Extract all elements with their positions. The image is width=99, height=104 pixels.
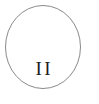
roman-numeral-label: II <box>0 59 86 79</box>
figure-canvas: II <box>0 0 99 104</box>
circle-outline-svg <box>0 0 99 104</box>
